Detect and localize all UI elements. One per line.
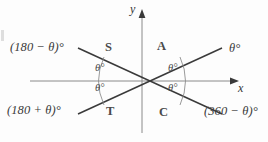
scan-edge-artifact: [1, 30, 4, 41]
label-180-plus-theta: (180 + θ)°: [7, 104, 61, 117]
y-axis-label: y: [130, 3, 135, 15]
inner-angle-upper-left: θ°: [95, 63, 104, 74]
quadrant-letter-a: A: [157, 40, 166, 53]
diagram-canvas: [0, 0, 268, 142]
inner-angle-lower-right: θ°: [168, 83, 177, 94]
x-axis-label: x: [238, 82, 243, 94]
quadrant-letter-t: T: [106, 105, 114, 118]
inner-angle-upper-right: θ°: [168, 63, 177, 74]
label-theta: θ°: [229, 42, 240, 55]
quadrant-letter-s: S: [105, 41, 112, 54]
cast-quadrant-diagram: (180 − θ)° θ° (180 + θ)° (360 − θ)° S A …: [0, 0, 268, 142]
label-180-minus-theta: (180 − θ)°: [10, 41, 64, 54]
inner-angle-lower-left: θ°: [95, 83, 104, 94]
quadrant-letter-c: C: [159, 106, 168, 119]
label-360-minus-theta: (360 − θ)°: [204, 105, 258, 118]
y-axis-arrowhead: [139, 9, 146, 18]
